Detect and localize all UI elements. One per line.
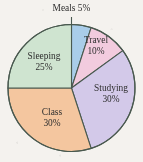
pie-label-class-name: Class — [42, 107, 63, 117]
pie-label-sleeping-value: 25% — [35, 62, 52, 72]
pie-label-travel-value: 10% — [87, 46, 104, 56]
pie-chart-figure: Meals 5% Travel 10% Studying 30% Class 3… — [0, 0, 143, 162]
pie-label-sleeping-name: Sleeping — [28, 51, 61, 61]
pie-label-studying-value: 30% — [102, 94, 119, 104]
pie-label-class-value: 30% — [43, 118, 60, 128]
pie-label-travel-name: Travel — [84, 35, 109, 45]
pie-label-studying-name: Studying — [94, 83, 128, 93]
pie-label-meals: Meals 5% — [53, 3, 91, 13]
pie-chart-svg: Meals 5% Travel 10% Studying 30% Class 3… — [0, 0, 143, 162]
